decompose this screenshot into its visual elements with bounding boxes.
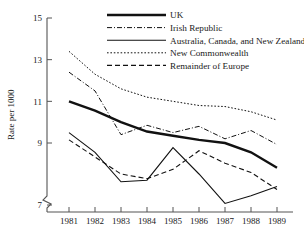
y-tick-label: 15 [33, 13, 43, 23]
y-tick-label: 9 [38, 138, 43, 148]
x-tick-labels: 198119821983198419851986198719881989 [60, 216, 287, 226]
y-axis-line [43, 18, 51, 212]
y-tick-label: 7 [38, 200, 43, 210]
y-tick-marks [47, 18, 52, 205]
y-tick-label: 13 [33, 55, 43, 65]
x-tick-label: 1985 [164, 216, 183, 226]
y-tick-labels: 15131197 [33, 13, 43, 210]
legend-label: Remainder of Europe [170, 61, 249, 71]
line-chart: 15131197 1981198219831984198519861987198… [0, 0, 304, 237]
x-tick-label: 1981 [60, 216, 78, 226]
x-tick-label: 1986 [190, 216, 209, 226]
legend-label: New Commonwealth [170, 48, 249, 58]
x-tick-marks [69, 207, 277, 212]
x-tick-label: 1984 [138, 216, 157, 226]
x-tick-label: 1988 [242, 216, 261, 226]
x-tick-label: 1987 [216, 216, 235, 226]
x-tick-label: 1989 [268, 216, 287, 226]
series-line [69, 72, 277, 144]
y-axis-title: Rate per 1000 [6, 89, 16, 140]
legend-label: Australia, Canada, and New Zealand, [170, 36, 304, 46]
series-line [69, 133, 277, 204]
series-lines [69, 51, 277, 203]
x-tick-label: 1983 [112, 216, 131, 226]
legend-label: UK [170, 10, 184, 20]
x-tick-label: 1982 [86, 216, 104, 226]
legend-label: Irish Republic [170, 23, 222, 33]
chart-container: 15131197 1981198219831984198519861987198… [0, 0, 304, 237]
chart-legend: UKIrish RepublicAustralia, Canada, and N… [107, 10, 304, 70]
y-tick-label: 11 [33, 97, 42, 107]
